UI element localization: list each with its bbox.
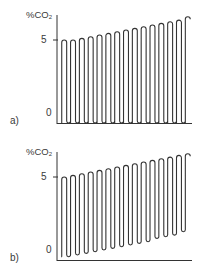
chart-panel-b: %CO2 5 0 b) <box>0 137 198 274</box>
co2-trace <box>62 154 191 257</box>
panel-label-b: b) <box>10 253 19 263</box>
y-tick-5: 5 <box>41 35 47 45</box>
capnogram-plot-b <box>0 137 198 274</box>
co2-trace <box>62 17 191 123</box>
chart-panel-a: %CO2 5 0 a) <box>0 0 198 137</box>
y-axis-label: %CO2 <box>26 147 52 157</box>
y-tick-0: 0 <box>46 245 52 255</box>
panel-label-a: a) <box>10 116 19 126</box>
y-tick-0: 0 <box>46 108 52 118</box>
y-axis-label: %CO2 <box>26 10 52 20</box>
y-tick-5: 5 <box>41 172 47 182</box>
capnogram-plot-a <box>0 0 198 137</box>
